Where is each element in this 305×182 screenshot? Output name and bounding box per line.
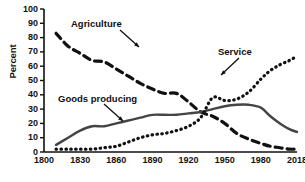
- plot-area: [0, 0, 305, 182]
- data-series-layer: [56, 33, 297, 149]
- employment-share-line-chart: Percent 0102030405060708090100 180018301…: [0, 0, 305, 182]
- series-line-goods-producing: [56, 105, 297, 145]
- series-line-service: [56, 56, 297, 149]
